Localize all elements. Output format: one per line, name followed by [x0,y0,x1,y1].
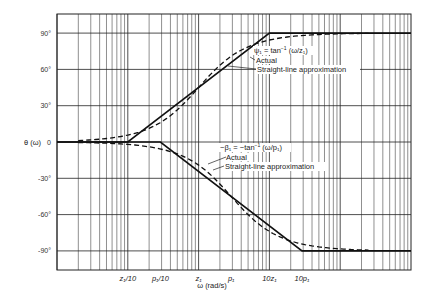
y-tick-label: 30° [40,102,51,109]
y-tick-label: -60° [38,211,51,218]
y-tick-label: 90° [40,30,51,37]
beta-equation: −β₁ = −tan−1 (ω/p₁) [220,142,283,152]
beta-approx-label: Straight-line approximation [225,162,314,171]
psi-actual-leader [250,57,255,60]
x-axis-title: ω (rad/s) [197,281,227,290]
x-tick-label: 10z₁ [262,274,277,283]
y-tick-label: -90° [38,247,51,254]
x-tick-label: p₁/10 [151,274,170,283]
x-tick-label: p₁ [227,274,235,283]
x-tick-label: z₁/10 [119,274,137,283]
y-axis-title: θ (ω) [24,138,42,147]
psi-actual-label: Actual [256,56,277,65]
series-line-0 [57,33,411,142]
series-line-3 [78,143,368,251]
bode-phase-chart: 90°60°30°0-30°-60°-90° z₁/10p₁/10z₁p₁10z… [0,0,429,303]
beta-annotation: −β₁ = −tan−1 (ω/p₁) Actual Straight-line… [208,142,328,171]
beta-approx-leader [213,166,224,170]
beta-actual-label: Actual [226,153,247,162]
x-tick-label: 10p₁ [295,274,311,283]
psi-approx-label: Straight-line approximation [257,65,346,74]
y-tick-label: -30° [38,175,51,182]
y-tick-label: 0 [47,139,51,146]
beta-actual-leader [208,157,226,164]
y-tick-label: 60° [40,66,51,73]
series-line-1 [78,33,368,140]
